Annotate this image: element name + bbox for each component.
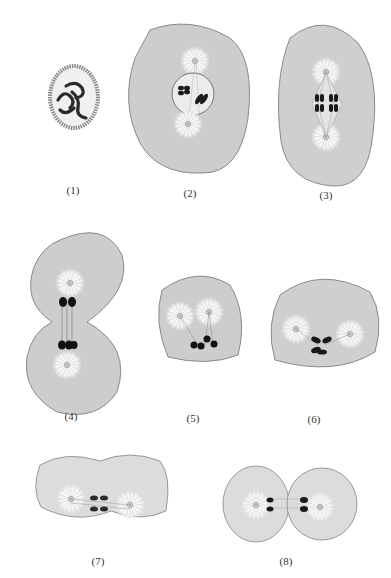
panel-5-cell xyxy=(159,276,242,361)
panel-label-5: (5) xyxy=(187,412,200,424)
panel-6-cell xyxy=(271,279,379,367)
panel-label-1: (1) xyxy=(67,184,80,196)
panel-2-cell xyxy=(129,24,250,173)
panel-label-3: (3) xyxy=(320,189,333,201)
panel-label-4: (4) xyxy=(65,410,78,422)
panel-3-cell xyxy=(278,25,374,186)
panel-4-cell xyxy=(26,233,123,415)
panel-7-cell xyxy=(36,455,168,520)
panel-label-7: (7) xyxy=(92,555,105,567)
panel-label-6: (6) xyxy=(308,413,321,425)
panel-1-nucleus xyxy=(50,66,98,128)
panel-label-2: (2) xyxy=(184,187,197,199)
panel-label-8: (8) xyxy=(280,555,293,567)
panel-8-cell xyxy=(223,466,357,542)
mitosis-figure xyxy=(0,0,391,578)
